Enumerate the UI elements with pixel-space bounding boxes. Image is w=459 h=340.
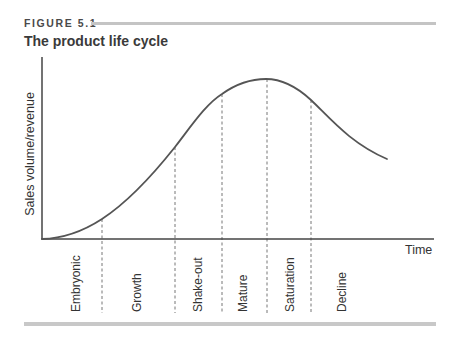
stage-label-mature: Mature <box>236 275 250 312</box>
stage-label-embryonic: Embryonic <box>69 255 83 312</box>
stage-label-growth: Growth <box>130 273 144 312</box>
stage-label-decline: Decline <box>335 272 349 312</box>
sales-curve <box>42 79 387 239</box>
x-axis-label: Time <box>405 243 432 257</box>
stage-label-shake-out: Shake-out <box>191 257 205 312</box>
bottom-rule-divider <box>24 322 436 326</box>
stage-label-saturation: Saturation <box>283 257 297 312</box>
y-axis-label: Sales volume/revenue <box>23 92 37 216</box>
